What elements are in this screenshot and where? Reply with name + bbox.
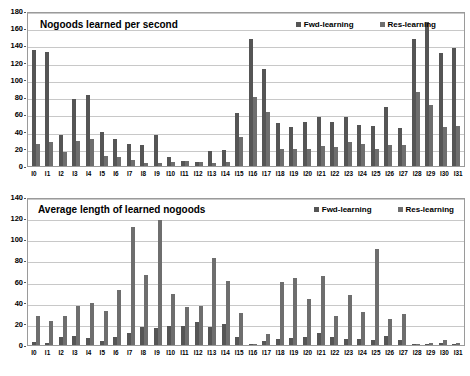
x-tick-label: I16 — [246, 169, 260, 178]
bar-series-top — [28, 13, 464, 166]
bar-group — [192, 199, 206, 345]
bar-res — [36, 316, 40, 345]
bar-res — [361, 312, 365, 345]
x-tick-label: I23 — [342, 348, 356, 357]
bar-group — [382, 13, 396, 166]
x-tick-label: I9 — [150, 169, 164, 178]
x-tick-label: I26 — [383, 348, 397, 357]
bar-fwd — [154, 135, 158, 166]
chart-title-top: Nogoods learned per second — [40, 19, 178, 30]
bar-group — [56, 199, 70, 345]
x-tick-label: I15 — [232, 348, 246, 357]
x-tick-label: I2 — [54, 169, 68, 178]
x-tick-label: I13 — [205, 169, 219, 178]
bar-group — [395, 13, 409, 166]
bar-res — [293, 149, 297, 166]
chart-title-bottom: Average length of learned nogoods — [38, 204, 205, 215]
bar-group — [341, 13, 355, 166]
x-tick-label: I25 — [369, 348, 383, 357]
legend-label-res: Res-learning — [406, 205, 454, 214]
bar-group — [124, 13, 138, 166]
y-tick-label: 100 — [10, 77, 23, 85]
bar-res — [429, 105, 433, 166]
bar-group — [29, 13, 43, 166]
legend-item-fwd-learning: Fwd-learning — [314, 205, 372, 214]
bar-group — [219, 199, 233, 345]
bar-res — [402, 314, 406, 345]
bar-res — [90, 139, 94, 166]
y-tick-label: 100 — [10, 236, 23, 244]
bar-res — [334, 316, 338, 345]
x-tick-label: I8 — [137, 169, 151, 178]
bar-res — [117, 290, 121, 345]
x-tick-label: I30 — [438, 348, 452, 357]
x-tick-label: I22 — [328, 348, 342, 357]
bar-group — [355, 199, 369, 345]
x-tick-label: I27 — [397, 348, 411, 357]
bar-res — [239, 137, 243, 166]
bar-group — [110, 13, 124, 166]
bar-res — [49, 321, 53, 345]
x-tick-label: I11 — [178, 169, 192, 178]
y-tick-label: 120 — [10, 215, 23, 223]
bar-res — [76, 306, 80, 345]
bar-group — [192, 13, 206, 166]
bar-res — [443, 340, 447, 345]
bar-group — [422, 13, 436, 166]
x-tick-label: I13 — [205, 348, 219, 357]
x-tick-label: I10 — [164, 169, 178, 178]
y-tick-label: 80 — [15, 257, 23, 265]
bar-group — [355, 13, 369, 166]
bar-group — [246, 199, 260, 345]
bar-group — [138, 13, 152, 166]
bar-group — [287, 13, 301, 166]
x-tick-label: I21 — [314, 169, 328, 178]
bar-res — [416, 344, 420, 345]
x-tick-label: I5 — [95, 348, 109, 357]
bar-group — [368, 13, 382, 166]
legend-swatch-icon-fwd — [296, 22, 301, 27]
bar-group — [151, 199, 165, 345]
bar-group — [422, 199, 436, 345]
bar-group — [138, 199, 152, 345]
bar-group — [151, 13, 165, 166]
bar-res — [266, 334, 270, 345]
x-tick-label: I20 — [301, 169, 315, 178]
bar-res — [348, 142, 352, 166]
bar-res — [375, 249, 379, 345]
bar-group — [436, 13, 450, 166]
x-tick-label: I19 — [287, 348, 301, 357]
bar-res — [104, 156, 108, 166]
x-tick-label: I2 — [54, 348, 68, 357]
x-tick-label: I8 — [137, 348, 151, 357]
x-tick-label: I17 — [260, 169, 274, 178]
bar-res — [49, 142, 53, 166]
legend-top: Fwd-learning Res-learning — [296, 20, 436, 29]
bar-group — [327, 13, 341, 166]
x-tick-label: I3 — [68, 169, 82, 178]
bar-group — [110, 199, 124, 345]
y-tick-label: 140 — [10, 42, 23, 50]
x-tick-label: I30 — [438, 169, 452, 178]
bar-group — [219, 13, 233, 166]
x-tick-label: I22 — [328, 169, 342, 178]
bar-group — [124, 199, 138, 345]
y-tick-label: 160 — [10, 25, 23, 33]
x-tick-label: I16 — [246, 348, 260, 357]
bar-res — [131, 227, 135, 345]
y-tick-label: 60 — [15, 279, 23, 287]
x-tick-label: I26 — [383, 169, 397, 178]
bar-res — [144, 163, 148, 166]
bar-res — [307, 299, 311, 346]
bar-res — [402, 145, 406, 166]
bar-group — [178, 13, 192, 166]
x-tick-label: I31 — [451, 169, 465, 178]
x-tick-label: I27 — [397, 169, 411, 178]
x-tick-label: I6 — [109, 169, 123, 178]
x-tick-label: I14 — [219, 348, 233, 357]
bar-group — [232, 199, 246, 345]
x-tick-label: I12 — [191, 348, 205, 357]
bar-group — [395, 199, 409, 345]
figure-two-bar-charts: 020406080100120140160180 Nogoods learned… — [0, 0, 470, 376]
legend-item-res-learning: Res-learning — [380, 20, 436, 29]
